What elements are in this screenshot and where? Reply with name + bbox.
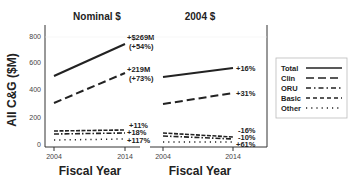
right-panel-title: 2004 $ xyxy=(185,11,216,22)
annotation-other-right: +61% xyxy=(236,140,256,149)
legend-label-basic: Basic xyxy=(281,94,301,103)
series-total-left xyxy=(54,44,125,76)
left-panel-title: Nominal $ xyxy=(73,11,121,22)
series-clin-left xyxy=(54,73,125,103)
annotation-other-left: +117% xyxy=(127,136,150,145)
y-tick-800: 800 xyxy=(29,33,41,40)
y-axis-label: All C&G ($M) xyxy=(5,53,19,126)
series-oru-right xyxy=(163,136,233,139)
annotation-total-left-2: (+54%) xyxy=(129,42,154,51)
x-tick-2004-left: 2004 xyxy=(46,153,62,160)
legend-label-other: Other xyxy=(281,104,301,113)
legend-label-oru: ORU xyxy=(281,84,298,93)
series-total-right xyxy=(163,68,233,77)
annotation-clin-left-1: +219M xyxy=(127,65,150,74)
annotation-total-right: +16% xyxy=(236,64,256,73)
series-other-left xyxy=(54,139,125,140)
right-series xyxy=(163,68,233,142)
annotation-total-left-1: +$269M xyxy=(127,33,154,42)
y-tick-200: 200 xyxy=(29,114,41,121)
x-tick-2014-left: 2014 xyxy=(117,153,133,160)
annotation-clin-right: +31% xyxy=(236,89,256,98)
x-tick-2014-right: 2014 xyxy=(225,153,241,160)
y-tick-0: 0 xyxy=(37,141,41,148)
left-axes xyxy=(45,25,140,151)
series-oru-left xyxy=(54,133,125,134)
left-series xyxy=(54,44,125,140)
y-tick-400: 400 xyxy=(29,86,41,93)
legend-label-total: Total xyxy=(281,64,298,73)
x-axis-label-right: Fiscal Year xyxy=(169,164,232,178)
legend: Total Clin ORU Basic Other xyxy=(276,58,347,118)
x-tick-2004-right: 2004 xyxy=(155,153,171,160)
annotation-clin-left-2: (+73%) xyxy=(129,74,154,83)
series-basic-left xyxy=(54,130,125,131)
x-axis-label-left: Fiscal Year xyxy=(59,164,122,178)
series-clin-right xyxy=(163,93,233,104)
y-tick-600: 600 xyxy=(29,59,41,66)
chart-canvas: Nominal $ 2004 $ All C&G ($M) 800 600 40… xyxy=(0,0,357,187)
legend-label-clin: Clin xyxy=(281,74,296,83)
